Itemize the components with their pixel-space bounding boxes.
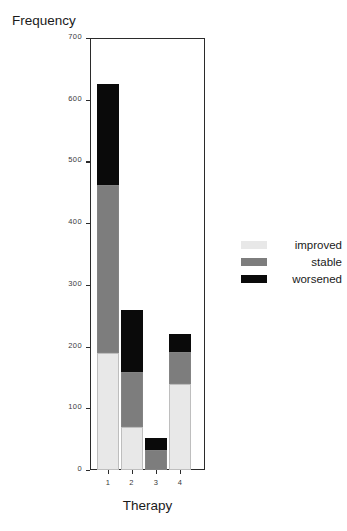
bar-segment-improved[interactable] — [169, 384, 191, 470]
bar-segment-improved[interactable] — [121, 427, 143, 470]
legend-label: improved — [276, 239, 342, 251]
bar-segment-stable[interactable] — [145, 450, 167, 470]
x-axis-tick-mark — [132, 470, 133, 474]
bar-segment-worsened[interactable] — [145, 438, 167, 450]
bar-stack[interactable] — [97, 84, 119, 470]
x-axis-tick-mark — [156, 470, 157, 474]
x-axis-tick-label: 4 — [170, 478, 190, 487]
x-axis-title: Therapy — [90, 498, 205, 513]
legend-swatch-worsened — [241, 275, 267, 283]
y-axis-tick-label: 600 — [68, 94, 82, 103]
legend: improvedstableworsened — [241, 236, 342, 287]
y-axis-tick-label: 400 — [68, 217, 82, 226]
bar-segment-stable[interactable] — [97, 185, 119, 353]
x-axis-tick-mark — [180, 470, 181, 474]
y-axis-tick-label: 200 — [68, 341, 82, 350]
legend-item: stable — [241, 253, 342, 270]
x-axis-tick-mark — [108, 470, 109, 474]
bar-stack[interactable] — [145, 438, 167, 470]
y-axis-tick-label: 700 — [68, 32, 82, 41]
stacked-bar-chart: Frequency 0100200300400500600700 1234 Th… — [0, 0, 347, 531]
bar-segment-stable[interactable] — [121, 372, 143, 427]
bar-segment-worsened[interactable] — [169, 334, 191, 352]
bar-stack[interactable] — [169, 334, 191, 470]
y-axis-tick-label: 0 — [77, 464, 82, 473]
legend-swatch-stable — [241, 258, 267, 266]
bars-layer — [90, 38, 205, 470]
y-axis-tick-label: 100 — [68, 402, 82, 411]
x-axis-tick-label: 1 — [98, 478, 118, 487]
y-axis-tick-label: 500 — [68, 155, 82, 164]
legend-swatch-improved — [241, 241, 267, 249]
legend-label: worsened — [276, 273, 342, 285]
bar-segment-stable[interactable] — [169, 352, 191, 384]
y-axis-tick-mark — [86, 470, 90, 471]
x-axis-tick-label: 3 — [146, 478, 166, 487]
bar-segment-worsened[interactable] — [97, 84, 119, 185]
legend-label: stable — [276, 256, 342, 268]
legend-item: worsened — [241, 270, 342, 287]
y-axis-tick-label: 300 — [68, 279, 82, 288]
bar-segment-worsened[interactable] — [121, 310, 143, 372]
x-axis-tick-label: 2 — [122, 478, 142, 487]
y-axis-title: Frequency — [12, 13, 76, 28]
bar-segment-improved[interactable] — [97, 353, 119, 470]
legend-item: improved — [241, 236, 342, 253]
bar-stack[interactable] — [121, 310, 143, 470]
